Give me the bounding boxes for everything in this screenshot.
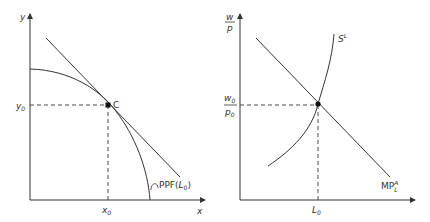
left-y-axis-label: y <box>19 12 26 22</box>
l0-tick-label: L0 <box>312 205 321 216</box>
ppf-label-bracket <box>151 184 158 190</box>
y0-tick-label: y0 <box>15 101 25 112</box>
labor-demand-label: MPAL <box>381 179 398 193</box>
labor-supply-curve <box>268 34 334 166</box>
left-x-axis-label: x <box>196 206 203 216</box>
svg-text:w: w <box>226 12 234 22</box>
labor-supply-label: SL <box>338 32 347 44</box>
right-y-axis-label: w p <box>225 12 235 33</box>
right-diagram: w p w0 p0 L0 SL MPAL <box>224 12 415 216</box>
diagram-canvas: y x y0 x0 C PPF(L0) w p w0 p0 L0 SL MPAL <box>0 0 430 222</box>
point-c-marker <box>106 103 111 108</box>
left-diagram: y x y0 x0 C PPF(L0) <box>15 12 205 216</box>
real-wage-tick-label: w0 p0 <box>224 93 237 118</box>
x0-tick-label: x0 <box>101 205 111 216</box>
svg-text:p: p <box>226 23 233 33</box>
point-c-label: C <box>113 100 119 110</box>
labor-demand-line <box>256 38 390 177</box>
equilibrium-point <box>315 101 320 106</box>
svg-text:p0: p0 <box>224 107 235 118</box>
ppf-curve-label: PPF(L0) <box>159 180 191 191</box>
ppf-curve <box>30 69 150 200</box>
svg-text:w0: w0 <box>224 93 235 104</box>
